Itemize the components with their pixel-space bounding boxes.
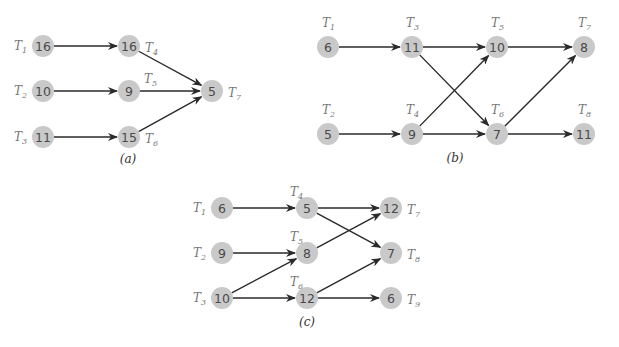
task-label: T3: [193, 291, 206, 307]
edge-t6-to-t8: [317, 259, 381, 293]
node-value: 6: [324, 40, 332, 55]
task-label: T4: [145, 41, 158, 57]
task-node-t9: 6T9: [380, 287, 420, 309]
task-node-t7: 8T7: [573, 16, 595, 58]
edge-t6-to-t7: [505, 55, 576, 126]
task-label: T3: [406, 16, 419, 32]
task-label: T1: [193, 201, 206, 217]
task-label: T5: [290, 230, 303, 246]
node-value: 9: [408, 127, 416, 142]
node-value: 12: [383, 201, 399, 216]
node-value: 7: [387, 246, 395, 261]
node-value: 15: [121, 130, 137, 145]
task-node-t6: 7T6: [486, 103, 508, 145]
node-value: 9: [125, 84, 133, 99]
node-value: 7: [493, 127, 501, 142]
task-label: T7: [578, 16, 592, 32]
node-value: 16: [121, 39, 137, 54]
task-subscript: 3: [201, 298, 206, 307]
task-subscript: 7: [586, 23, 592, 32]
task-subscript: 4: [413, 110, 419, 119]
task-node-t3: 10T3: [193, 287, 233, 309]
task-node-t5: 10T5: [486, 16, 508, 58]
task-label: T2: [322, 103, 335, 119]
task-subscript: 1: [22, 46, 27, 55]
task-subscript: 8: [415, 255, 420, 264]
task-label: T6: [290, 275, 303, 291]
task-node-t3: 11T3: [14, 126, 54, 148]
task-label: T9: [407, 293, 420, 309]
node-value: 8: [303, 246, 311, 261]
node-value: 10: [35, 84, 51, 99]
task-label: T1: [322, 16, 335, 32]
task-node-t7: 5T7: [201, 80, 242, 102]
task-subscript: 4: [152, 48, 158, 57]
task-label: T8: [578, 103, 591, 119]
task-subscript: 9: [415, 300, 420, 309]
task-subscript: 1: [330, 23, 335, 32]
task-node-t7: 12T7: [380, 197, 421, 219]
task-node-t5: 8T5: [290, 230, 318, 264]
task-subscript: 1: [201, 208, 206, 217]
task-subscript: 3: [22, 137, 27, 146]
task-label: T1: [14, 39, 27, 55]
task-subscript: 8: [586, 110, 591, 119]
task-label: T6: [145, 132, 158, 148]
diagram-a-caption: (a): [120, 152, 137, 166]
node-value: 6: [387, 291, 395, 306]
task-subscript: 5: [298, 237, 303, 246]
node-value: 10: [214, 291, 230, 306]
task-node-t8: 11T8: [573, 103, 595, 145]
task-label: T3: [14, 130, 27, 146]
task-label: T6: [491, 103, 504, 119]
task-graph-canvas: 16T110T211T316T49T515T65T76T15T211T39T41…: [0, 0, 619, 347]
task-node-t4: 9T4: [401, 103, 423, 145]
node-value: 6: [218, 201, 226, 216]
task-node-t6: 12T6: [290, 275, 318, 309]
node-value: 9: [218, 246, 226, 261]
node-value: 5: [324, 127, 332, 142]
node-value: 16: [35, 39, 51, 54]
task-node-t6: 15T6: [118, 126, 158, 148]
task-subscript: 6: [499, 110, 504, 119]
task-node-t8: 7T8: [380, 242, 420, 264]
task-node-t1: 6T1: [193, 197, 233, 219]
task-label: T5: [491, 16, 504, 32]
task-node-t1: 6T1: [317, 16, 339, 58]
task-label: T7: [407, 203, 421, 219]
task-label: T2: [193, 246, 206, 262]
task-subscript: 2: [21, 91, 27, 100]
node-value: 5: [303, 201, 311, 216]
task-subscript: 5: [152, 79, 157, 88]
task-node-t1: 16T1: [14, 35, 54, 57]
task-subscript: 7: [415, 210, 421, 219]
task-node-t3: 11T3: [401, 16, 423, 58]
diagram-a-nodes: 16T110T211T316T49T515T65T7: [14, 35, 242, 148]
diagram-c-caption: (c): [299, 315, 315, 329]
task-subscript: 4: [297, 192, 303, 201]
task-subscript: 3: [414, 23, 419, 32]
node-value: 11: [404, 40, 420, 55]
diagram-b-edges: [339, 47, 576, 134]
diagram-b-caption: (b): [446, 151, 463, 165]
task-subscript: 6: [298, 282, 303, 291]
task-subscript: 2: [200, 253, 206, 262]
task-subscript: 2: [329, 110, 335, 119]
task-subscript: 5: [499, 23, 504, 32]
edge-t3-to-t5: [232, 259, 297, 293]
task-label: T5: [144, 72, 157, 88]
edge-t6-to-t7: [139, 97, 202, 132]
task-node-t5: 9T5: [118, 72, 157, 102]
task-node-t2: 10T2: [14, 80, 54, 102]
task-subscript: 6: [153, 139, 158, 148]
task-label: T4: [290, 185, 303, 201]
node-value: 10: [489, 40, 505, 55]
node-value: 11: [576, 127, 592, 142]
nodes-layer: 16T110T211T316T49T515T65T76T15T211T39T41…: [14, 16, 595, 309]
task-label: T2: [14, 84, 27, 100]
node-value: 12: [299, 291, 315, 306]
node-value: 8: [580, 40, 588, 55]
node-value: 11: [35, 130, 51, 145]
diagram-b-nodes: 6T15T211T39T410T57T68T711T8: [317, 16, 595, 145]
task-node-t4: 16T4: [118, 35, 158, 57]
